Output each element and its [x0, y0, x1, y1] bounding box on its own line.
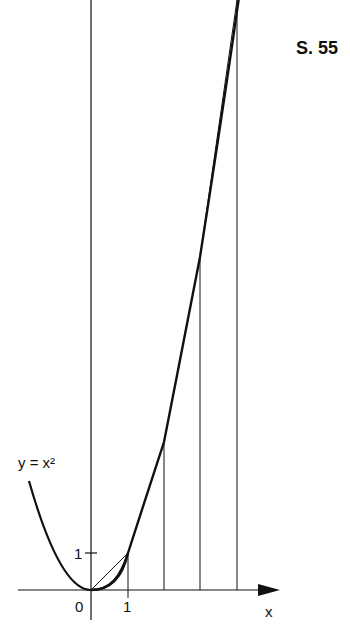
parabola-curve: [29, 481, 128, 590]
curve-label: y = x²: [18, 454, 55, 471]
x-axis-arrow-icon: [258, 584, 280, 596]
parabola-curve-right: [91, 0, 240, 590]
parabola-diagram: [0, 0, 350, 630]
y-tick-label: 1: [74, 545, 82, 562]
origin-label: 0: [75, 598, 83, 615]
x-axis-label: x: [265, 603, 273, 620]
page-number: S. 55: [296, 38, 338, 59]
x-tick-label: 1: [123, 598, 131, 615]
